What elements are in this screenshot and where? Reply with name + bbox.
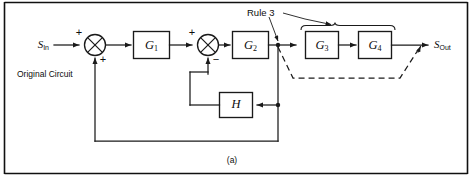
block-diagram-canvas: SIn + + G1 + − G xyxy=(0,0,472,176)
block-diagram-figure: SIn + + G1 + − G xyxy=(0,0,472,176)
output-signal-group: SOut xyxy=(392,38,451,51)
figure-frame xyxy=(5,2,468,174)
takeoff-node-group xyxy=(269,43,297,47)
rule-3-brace xyxy=(301,23,395,31)
summing-junction-2: + − xyxy=(170,26,220,65)
figure-caption: (a) xyxy=(227,155,238,165)
rule-3-leader-horizontal xyxy=(283,13,305,19)
input-signal-label: SIn xyxy=(38,38,49,51)
dashed-bypass-arrowhead xyxy=(418,47,421,53)
original-circuit-label: Original Circuit xyxy=(17,69,73,79)
figure-caption-group: (a) xyxy=(227,155,238,165)
block-g3: G3 xyxy=(306,32,339,59)
input-signal-group: SIn xyxy=(38,38,79,51)
sum1-sign-top: + xyxy=(76,26,82,38)
dashed-bypass-path xyxy=(278,47,421,79)
sum2-sign-top: + xyxy=(189,26,195,38)
block-g2: G2 xyxy=(219,32,269,59)
original-circuit-note: Original Circuit xyxy=(17,69,73,79)
block-g4: G4 xyxy=(339,32,392,59)
rule-3-leader-to-brace xyxy=(305,19,331,25)
block-g1: G1 xyxy=(106,32,170,59)
rule-3-label: Rule 3 xyxy=(247,7,274,18)
sum2-sign-bottom: − xyxy=(213,53,219,65)
summing-junction-1: + + xyxy=(76,26,106,65)
output-signal-label: SOut xyxy=(434,38,451,51)
sum1-sign-bottom: + xyxy=(100,53,106,65)
h-label: H xyxy=(230,97,241,111)
rule-3-leader-to-node xyxy=(269,17,278,41)
dashed-bypass-line xyxy=(278,47,418,78)
